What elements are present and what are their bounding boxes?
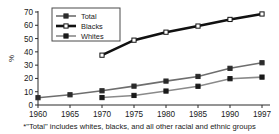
y-axis-tick-label: 0 <box>28 101 33 110</box>
chart-container: 010203040506070%196019651970197519801985… <box>0 0 279 134</box>
data-point-marker <box>164 89 168 93</box>
chart-footnote-wrap: *"Total" includes whites, blacks, and al… <box>0 115 279 133</box>
y-axis-tick-label: 60 <box>24 21 34 30</box>
y-axis-tick-label: 10 <box>24 88 34 97</box>
y-axis-tick-label: 70 <box>24 8 34 17</box>
legend-marker-whites <box>64 34 68 38</box>
y-axis-title: % <box>7 55 16 62</box>
y-axis-tick-label: 50 <box>24 35 34 44</box>
data-point-marker <box>228 77 232 81</box>
data-point-marker <box>100 53 104 57</box>
line-chart: 010203040506070%196019651970197519801985… <box>0 0 279 134</box>
data-point-marker <box>164 79 168 83</box>
data-point-marker <box>228 17 232 21</box>
data-point-marker <box>196 84 200 88</box>
legend-marker-blacks <box>64 24 68 28</box>
legend-label-total: Total <box>81 12 97 21</box>
chart-legend: TotalBlacksWhites <box>52 8 120 41</box>
data-point-marker <box>132 93 136 97</box>
data-point-marker <box>196 24 200 28</box>
data-point-marker <box>196 74 200 78</box>
data-point-marker <box>68 93 72 97</box>
data-point-marker <box>132 84 136 88</box>
series-line <box>102 14 262 55</box>
data-point-marker <box>228 66 232 70</box>
data-point-marker <box>132 38 136 42</box>
data-point-marker <box>260 61 264 65</box>
data-point-marker <box>36 96 40 100</box>
data-point-marker <box>100 89 104 93</box>
legend-label-blacks: Blacks <box>81 22 103 31</box>
legend-marker-total <box>64 14 68 18</box>
chart-footnote: *"Total" includes whites, blacks, and al… <box>23 122 256 131</box>
y-axis-tick-label: 30 <box>24 61 34 70</box>
data-point-marker <box>164 30 168 34</box>
legend-label-whites: Whites <box>81 32 104 41</box>
data-point-marker <box>100 95 104 99</box>
y-axis-tick-label: 20 <box>24 74 34 83</box>
y-axis-tick-label: 40 <box>24 48 34 57</box>
data-point-marker <box>260 12 264 16</box>
data-point-marker <box>260 75 264 79</box>
series-blacks <box>100 12 264 57</box>
